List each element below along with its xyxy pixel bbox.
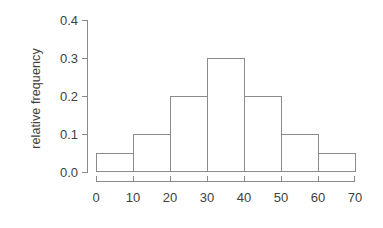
y-axis-tick-label: 0.2 <box>44 90 78 103</box>
x-axis-line <box>96 181 355 182</box>
x-axis-tick <box>244 176 245 181</box>
y-axis-tick-label-group: 0.00.10.20.30.4 <box>44 0 78 228</box>
x-axis-tick-label: 60 <box>298 190 338 206</box>
x-axis-tick-label-group: 010203040506070 <box>96 190 355 212</box>
x-axis-tick-label: 0 <box>76 190 116 206</box>
x-axis-tick <box>318 176 319 181</box>
y-axis-end-cap <box>82 172 88 173</box>
y-axis-tick-label: 0.1 <box>44 128 78 141</box>
bar-baseline <box>96 171 355 172</box>
x-axis-tick-label: 10 <box>113 190 153 206</box>
x-axis-tick <box>133 176 134 181</box>
y-axis-tick <box>82 134 88 135</box>
x-axis-end-cap <box>96 176 97 181</box>
x-axis-tick <box>170 176 171 181</box>
x-axis-tick-label: 30 <box>187 190 227 206</box>
histogram-bar <box>170 96 208 172</box>
y-axis-tick-label: 0.0 <box>44 166 78 179</box>
x-axis-tick <box>281 176 282 181</box>
histogram-bar <box>244 96 282 172</box>
plot-area <box>96 20 355 172</box>
histogram-bar <box>318 153 356 172</box>
x-axis-tick-label: 50 <box>261 190 301 206</box>
y-axis-tick <box>82 58 88 59</box>
histogram-bar <box>281 134 319 172</box>
x-axis-tick-label: 70 <box>335 190 375 206</box>
histogram-chart: relative frequency 0.00.10.20.30.4 01020… <box>0 0 383 228</box>
histogram-bar <box>207 58 245 172</box>
y-axis-tick-label: 0.3 <box>44 52 78 65</box>
y-axis-tick <box>82 96 88 97</box>
y-axis-line <box>87 20 88 172</box>
histogram-bar <box>133 134 171 172</box>
y-axis-tick-label: 0.4 <box>44 14 78 27</box>
x-axis-tick <box>207 176 208 181</box>
x-axis-tick-label: 20 <box>150 190 190 206</box>
x-axis-tick-label: 40 <box>224 190 264 206</box>
y-axis-end-cap <box>82 20 88 21</box>
x-axis-end-cap <box>354 176 355 181</box>
histogram-bar <box>96 153 134 172</box>
